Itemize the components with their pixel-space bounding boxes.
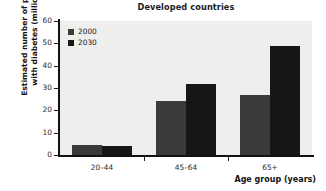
y-tick-mark	[54, 110, 59, 111]
legend-label-2000: 2000	[78, 28, 97, 35]
y-tick-label: 30	[30, 84, 52, 91]
chart-title: Developed countries	[60, 2, 312, 12]
y-tick-label: 20	[30, 106, 52, 113]
y-tick-mark	[54, 21, 59, 22]
legend-item-2030: 2030	[68, 38, 97, 48]
legend-label-2030: 2030	[78, 39, 97, 46]
legend: 20002030	[68, 27, 97, 49]
bar-2000-45–64	[156, 101, 186, 155]
legend-item-2000: 2000	[68, 27, 97, 37]
y-tick-label: 50	[30, 39, 52, 46]
bar-2000-20–44	[72, 145, 102, 155]
y-tick-label: 10	[30, 129, 52, 136]
bar-2030-20–44	[102, 146, 132, 155]
y-tick-mark	[54, 43, 59, 44]
bar-2000-65+	[240, 95, 270, 155]
x-axis-title: Age group (years)	[234, 175, 316, 184]
y-tick-mark	[54, 88, 59, 89]
x-tick-label: 45–64	[146, 163, 226, 172]
bar-2030-45–64	[186, 84, 216, 155]
x-tick-mark	[144, 157, 145, 161]
y-tick-mark	[54, 133, 59, 134]
y-tick-mark	[54, 155, 59, 156]
x-tick-label: 20–44	[62, 163, 142, 172]
y-tick-label: 0	[30, 151, 52, 158]
x-axis-line	[58, 155, 314, 157]
legend-swatch-2030	[68, 40, 74, 46]
x-tick-label: 65+	[230, 163, 310, 172]
y-tick-label: 40	[30, 62, 52, 69]
x-tick-mark	[228, 157, 229, 161]
legend-swatch-2000	[68, 29, 74, 35]
y-axis-title-line1: Estimated number of people	[20, 0, 29, 96]
bar-chart-figure: Developed countries Estimated number of …	[0, 0, 326, 191]
y-tick-mark	[54, 66, 59, 67]
bar-2030-65+	[270, 46, 300, 155]
y-tick-label: 60	[30, 17, 52, 24]
